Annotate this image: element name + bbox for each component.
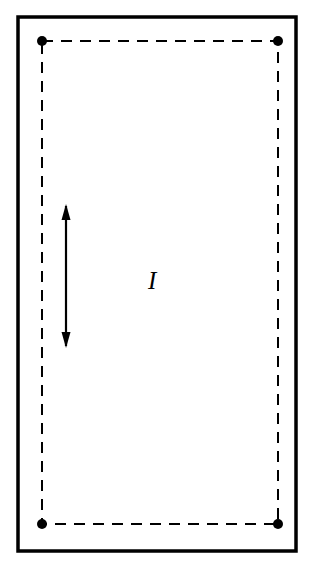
figure-background — [0, 0, 313, 577]
corner-node-bottom-right — [273, 519, 283, 529]
corner-node-bottom-left — [37, 519, 47, 529]
current-label: I — [148, 268, 156, 293]
figure-canvas — [0, 0, 313, 577]
figure-root: I — [0, 0, 313, 577]
corner-node-top-right — [273, 36, 283, 46]
corner-node-top-left — [37, 36, 47, 46]
